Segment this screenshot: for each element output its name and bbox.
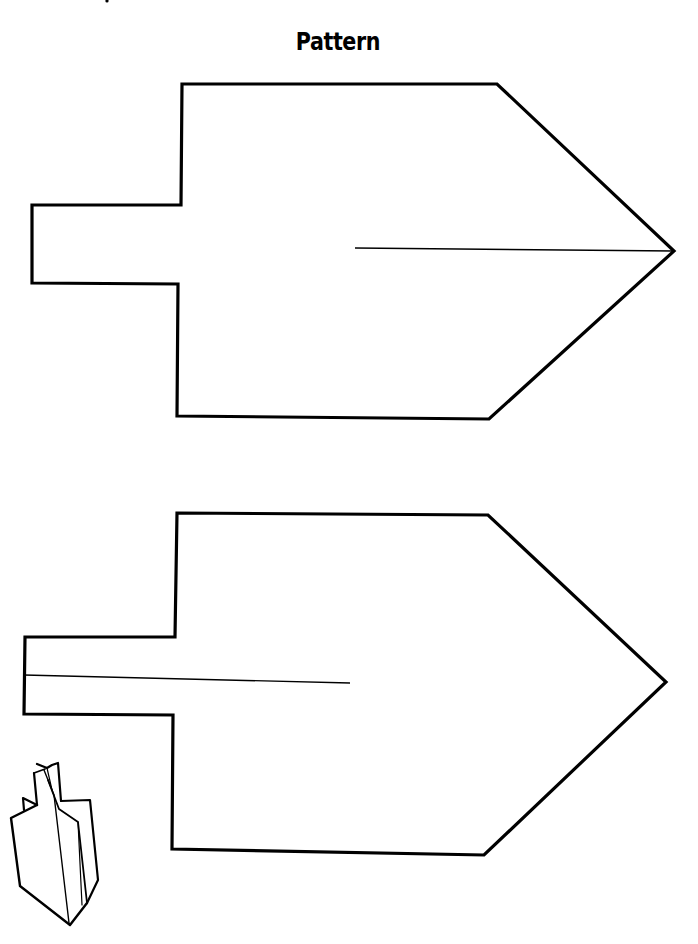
top-pattern-piece [32, 84, 674, 419]
top-piece-outline [32, 84, 674, 419]
pattern-artwork [0, 0, 698, 944]
scan-mark [105, 0, 108, 3]
bottom-piece-outline [24, 513, 666, 855]
top-piece-slit-line [355, 248, 674, 251]
pattern-page: Pattern [0, 0, 698, 944]
bottom-piece-slit-line [24, 675, 350, 683]
bottom-pattern-piece [24, 513, 666, 855]
assembled-dreidel-icon [11, 763, 98, 925]
